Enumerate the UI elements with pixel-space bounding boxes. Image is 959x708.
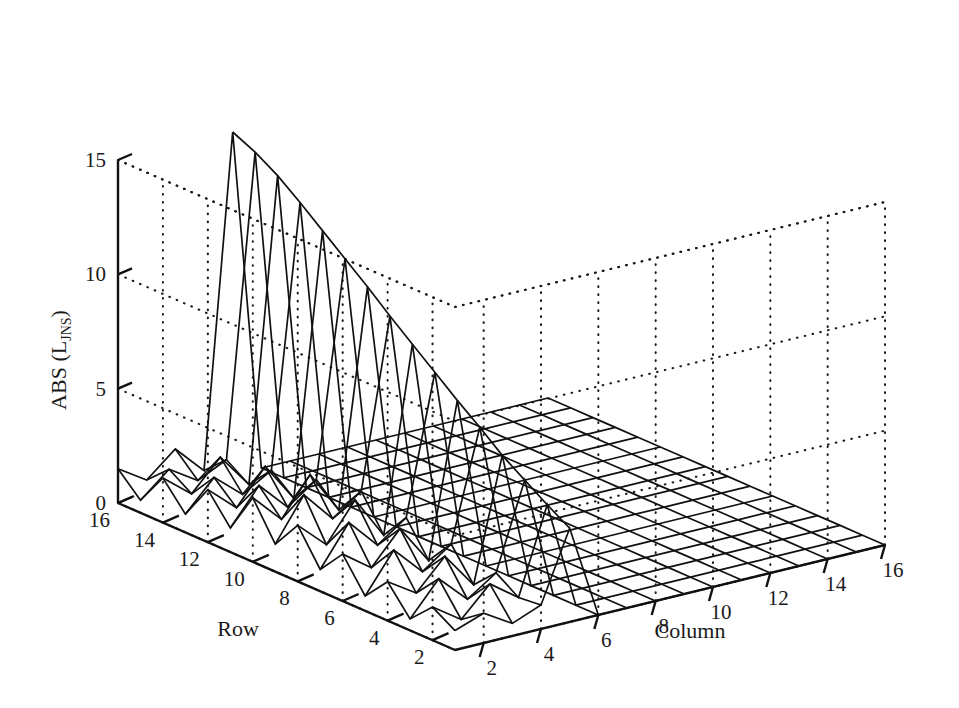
column-axis-tick-label: 6 (601, 628, 612, 652)
row-axis-tick-label: 2 (414, 645, 425, 669)
row-axis-tick (298, 574, 314, 581)
column-axis-tick (709, 587, 713, 601)
column-axis-tick-label: 2 (486, 656, 497, 680)
row-axis-tick (163, 516, 179, 523)
column-axis-tick (766, 573, 770, 587)
row-axis-tick-label: 8 (279, 586, 290, 610)
mesh-row-line (253, 287, 683, 527)
figure-canvas: 051015161412108642246810121416 ABS (LJNS… (0, 0, 959, 708)
column-axis-tick (824, 559, 828, 573)
row-axis-tick (208, 535, 224, 542)
column-axis-title: Column (655, 618, 726, 643)
z-axis-tick (118, 383, 132, 389)
z-axis-title-subscript: JNS (59, 317, 74, 340)
column-axis-tick-label: 14 (825, 572, 847, 596)
column-axis-tick-label: 16 (883, 558, 904, 582)
row-axis-tick-label: 4 (369, 626, 380, 650)
z-axis-tick (118, 154, 132, 160)
z-axis-tick-label: 5 (96, 377, 107, 401)
z-axis-title-main: ABS (L (46, 341, 71, 410)
z-axis-title: ABS (LJNS) (46, 310, 74, 410)
row-axis-title: Row (217, 616, 259, 641)
row-axis-tick-label: 10 (224, 567, 245, 591)
row-axis-tick-label: 16 (89, 508, 110, 532)
row-axis-tick-label: 12 (179, 547, 200, 571)
z-axis-tick-label: 10 (85, 262, 106, 286)
z-axis-tick (118, 268, 132, 274)
row-axis-tick-label: 14 (134, 528, 156, 552)
column-axis-tick (537, 629, 541, 643)
column-axis-tick-label: 12 (768, 586, 789, 610)
column-axis-tick-label: 4 (544, 642, 555, 666)
svg-text:ABS (LJNS): ABS (LJNS) (46, 310, 74, 410)
column-axis-tick (881, 545, 885, 559)
z-axis-tick-label: 15 (85, 148, 106, 172)
z-axis-title-close: ) (46, 310, 71, 317)
surface-plot-svg: 051015161412108642246810121416 ABS (LJNS… (0, 0, 959, 708)
mesh-row-line (140, 152, 570, 500)
row-axis-tick (388, 614, 404, 621)
column-axis-tick (594, 615, 598, 629)
mesh-row-line (455, 528, 885, 630)
row-axis-tick (253, 555, 269, 562)
row-axis-tick (118, 496, 134, 503)
row-axis-tick (433, 633, 449, 640)
column-axis-tick (652, 601, 656, 615)
row-axis-tick (343, 594, 359, 601)
row-axis-tick-label: 6 (324, 606, 335, 630)
column-axis-tick (480, 643, 484, 657)
